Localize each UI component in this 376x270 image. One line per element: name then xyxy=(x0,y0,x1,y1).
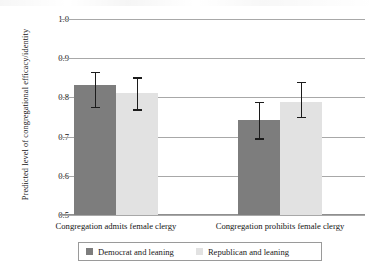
plot-area xyxy=(60,19,365,215)
category-label-2: Congregation prohibits female clergy xyxy=(170,221,376,231)
error-bar-cap-lower xyxy=(133,109,142,110)
chart-figure: Predicted level of congregational effica… xyxy=(0,0,376,270)
legend-item-democrat: Democrat and leaning xyxy=(86,247,174,257)
error-bar-line xyxy=(301,83,302,118)
chart-legend: Democrat and leaning Republican and lean… xyxy=(78,242,322,261)
error-bar-line xyxy=(137,78,138,110)
error-bar-cap-lower xyxy=(297,117,306,118)
error-bar-cap-lower xyxy=(91,107,100,108)
error-bar-cap-upper xyxy=(297,82,306,83)
gridline xyxy=(60,215,365,216)
scan-artifact xyxy=(0,0,376,6)
legend-label-democrat: Democrat and leaning xyxy=(98,247,174,257)
rep-swatch-icon xyxy=(196,248,203,255)
dem-swatch-icon xyxy=(86,248,93,255)
error-bar-cap-lower xyxy=(255,138,264,139)
gridline xyxy=(60,19,365,20)
bar-republican-group2 xyxy=(280,102,322,215)
legend-label-republican: Republican and leaning xyxy=(208,247,289,257)
error-bar-cap-upper xyxy=(133,77,142,78)
error-bar-line xyxy=(95,72,96,107)
error-bar-line xyxy=(259,102,260,138)
error-bar-cap-upper xyxy=(91,72,100,73)
gridline xyxy=(60,58,365,59)
legend-item-republican: Republican and leaning xyxy=(196,247,289,257)
bar-republican-group1 xyxy=(116,93,158,215)
y-axis-label: Predicted level of congregational effica… xyxy=(21,0,30,230)
error-bar-cap-upper xyxy=(255,102,264,103)
